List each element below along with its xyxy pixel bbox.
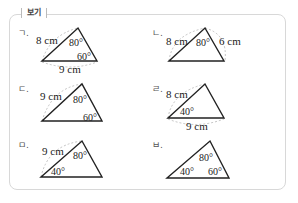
svg-text:80°: 80° xyxy=(196,37,210,48)
triangles-diagram: ㄱ. 8 cm 80° 60° 9 cm ㄴ. 8 cm 80° 6 cm ㄷ.… xyxy=(0,0,298,203)
svg-text:8 cm: 8 cm xyxy=(166,88,188,100)
svg-text:80°: 80° xyxy=(73,94,87,105)
triangle-b: ㄴ. 8 cm 80° 6 cm xyxy=(152,28,241,61)
triangle-d: ㄹ. 8 cm 40° 9 cm xyxy=(152,84,224,132)
svg-text:9 cm: 9 cm xyxy=(42,145,64,157)
triangle-a: ㄱ. 8 cm 80° 60° 9 cm xyxy=(18,28,97,75)
item-label: ㄷ. xyxy=(18,84,29,94)
item-label: ㄹ. xyxy=(152,84,163,94)
item-label: ㄴ. xyxy=(152,28,163,38)
svg-text:40°: 40° xyxy=(180,106,194,117)
svg-text:40°: 40° xyxy=(180,166,194,177)
svg-text:80°: 80° xyxy=(69,37,83,48)
svg-text:9 cm: 9 cm xyxy=(40,90,62,102)
item-label: ㅂ. xyxy=(152,140,163,150)
svg-text:80°: 80° xyxy=(73,150,87,161)
triangle-e: ㅁ. 9 cm 80° 40° xyxy=(18,140,102,177)
svg-text:40°: 40° xyxy=(51,166,65,177)
svg-text:80°: 80° xyxy=(199,152,213,163)
item-label: ㄱ. xyxy=(18,28,29,38)
item-label: ㅁ. xyxy=(18,140,29,150)
svg-text:60°: 60° xyxy=(83,112,97,123)
svg-text:60°: 60° xyxy=(208,166,222,177)
svg-text:9 cm: 9 cm xyxy=(59,63,81,75)
svg-text:9 cm: 9 cm xyxy=(186,120,208,132)
triangle-f: ㅂ. 80° 40° 60° xyxy=(152,140,229,178)
svg-text:6 cm: 6 cm xyxy=(219,35,241,47)
svg-text:8 cm: 8 cm xyxy=(166,35,188,47)
triangle-c: ㄷ. 9 cm 80° 60° xyxy=(18,84,102,123)
svg-text:60°: 60° xyxy=(77,51,91,62)
svg-text:8 cm: 8 cm xyxy=(36,34,58,46)
